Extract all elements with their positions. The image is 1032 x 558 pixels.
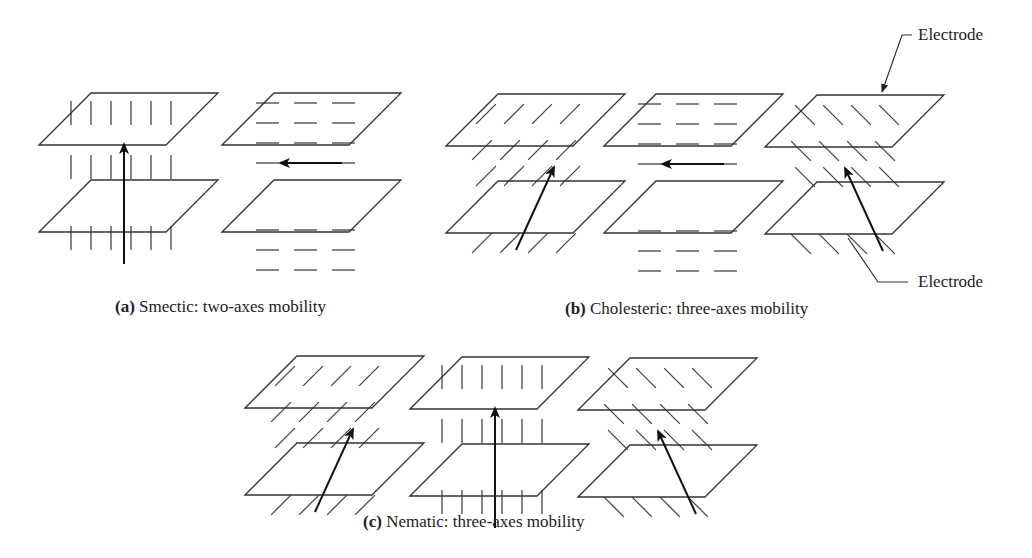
molecule: [664, 430, 684, 450]
molecule: [823, 167, 843, 187]
molecule: [556, 233, 576, 253]
top-electrode-plate: [222, 93, 401, 145]
molecule: [355, 402, 375, 422]
electrode-top-leader: [882, 35, 912, 92]
lc-cell-a-2: [222, 93, 401, 270]
bottom-electrode-plate: [222, 180, 401, 232]
molecule: [823, 105, 843, 125]
molecules: [472, 104, 580, 253]
molecule: [688, 404, 708, 424]
molecule: [851, 167, 871, 187]
director-arrow: [516, 167, 554, 250]
liquid-crystal-mobility-figure: Electrode Electrode (a) Smectic: two-axe…: [0, 0, 1032, 558]
molecule: [500, 140, 520, 160]
molecule: [327, 402, 347, 422]
molecules: [791, 105, 899, 254]
molecule: [879, 167, 899, 187]
molecules: [71, 101, 171, 250]
top-electrode-plate: [39, 93, 218, 145]
molecule: [879, 105, 899, 125]
molecule: [636, 368, 656, 388]
molecule: [303, 366, 323, 386]
lc-cell-c-3: [578, 358, 757, 517]
bottom-electrode-plate: [604, 181, 783, 233]
molecule: [528, 233, 548, 253]
molecule: [359, 428, 379, 448]
lc-cell-c-2: [410, 357, 589, 528]
molecule: [271, 402, 291, 422]
caption-c-text: Nematic: three-axes mobility: [382, 512, 585, 531]
top-electrode-plate: [410, 357, 589, 409]
top-electrode-plate: [765, 95, 944, 147]
molecule: [275, 428, 295, 448]
molecule: [560, 166, 580, 186]
caption-b: (b) Cholesteric: three-axes mobility: [565, 299, 808, 319]
molecules: [442, 365, 542, 514]
electrode-bottom-label: Electrode: [918, 272, 983, 292]
caption-c-letter: (c): [363, 512, 382, 531]
molecule: [303, 428, 323, 448]
molecule: [472, 140, 492, 160]
molecule: [632, 404, 652, 424]
molecule: [664, 368, 684, 388]
caption-b-text: Cholesteric: three-axes mobility: [586, 299, 808, 318]
molecule: [359, 366, 379, 386]
director-arrow: [315, 429, 353, 512]
molecule: [795, 105, 815, 125]
molecule: [819, 234, 839, 254]
top-electrode-plate: [604, 94, 783, 146]
molecule: [528, 140, 548, 160]
molecule: [608, 430, 628, 450]
molecule: [560, 104, 580, 124]
molecule: [692, 368, 712, 388]
molecule: [476, 166, 496, 186]
lc-cell-b-2: [604, 94, 783, 271]
molecule: [608, 368, 628, 388]
molecule: [331, 366, 351, 386]
molecule: [847, 141, 867, 161]
molecules: [271, 366, 379, 515]
molecule: [791, 234, 811, 254]
molecule: [660, 497, 680, 517]
molecule: [660, 404, 680, 424]
bottom-electrode-plate: [39, 180, 218, 232]
molecule: [299, 402, 319, 422]
molecule: [327, 495, 347, 515]
molecule: [795, 167, 815, 187]
figure-canvas: [0, 0, 1032, 558]
molecule: [819, 141, 839, 161]
molecules: [604, 368, 712, 517]
molecule: [875, 141, 895, 161]
caption-c: (c) Nematic: three-axes mobility: [363, 512, 584, 532]
molecules: [638, 104, 737, 271]
molecule: [476, 104, 496, 124]
molecule: [604, 404, 624, 424]
molecule: [604, 497, 624, 517]
lc-cell-b-3: [765, 95, 944, 254]
molecule: [875, 234, 895, 254]
lc-cell-c-1: [245, 356, 424, 515]
caption-a-letter: (a): [115, 297, 135, 316]
caption-a-text: Smectic: two-axes mobility: [135, 297, 326, 316]
molecule: [275, 366, 295, 386]
lc-cell-b-1: [446, 94, 625, 253]
lc-cell-a-1: [39, 93, 218, 264]
molecule: [636, 430, 656, 450]
molecule: [791, 141, 811, 161]
molecule: [472, 233, 492, 253]
molecule: [504, 104, 524, 124]
top-electrode-plate: [578, 358, 757, 410]
molecule: [632, 497, 652, 517]
molecule: [271, 495, 291, 515]
caption-a: (a) Smectic: two-axes mobility: [115, 297, 326, 317]
molecule: [692, 430, 712, 450]
molecule: [532, 104, 552, 124]
molecule: [688, 497, 708, 517]
molecule: [851, 105, 871, 125]
molecules: [256, 103, 355, 270]
molecule: [504, 166, 524, 186]
electrode-top-label: Electrode: [918, 25, 983, 45]
caption-b-letter: (b): [565, 299, 586, 318]
bottom-electrode-plate: [410, 444, 589, 496]
molecule: [556, 140, 576, 160]
